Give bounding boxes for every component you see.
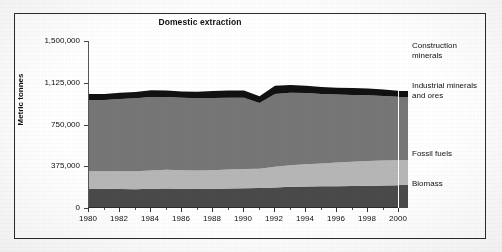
x-tick-mark-major (336, 208, 337, 212)
legend-swatch (399, 185, 408, 208)
x-tick-mark-minor (352, 208, 353, 210)
x-tick-label: 1998 (352, 214, 382, 223)
x-tick-label: 1984 (135, 214, 165, 223)
legend-label: Construction minerals (412, 41, 486, 60)
x-tick-mark-minor (383, 208, 384, 210)
y-tick-label: 750,000 (16, 120, 80, 129)
y-tick-label: 1,125,000 (16, 78, 80, 87)
x-tick-label: 1986 (166, 214, 196, 223)
legend-label: Industrial minerals and ores (412, 81, 486, 100)
x-tick-mark-minor (259, 208, 260, 210)
x-tick-mark-major (88, 208, 89, 212)
x-tick-mark-minor (197, 208, 198, 210)
x-tick-mark-major (243, 208, 244, 212)
x-tick-label: 1994 (290, 214, 320, 223)
legend-swatch (399, 160, 408, 185)
x-tick-mark-major (119, 208, 120, 212)
x-tick-mark-minor (104, 208, 105, 210)
y-tick-label: 1,500,000 (16, 36, 80, 45)
x-tick-mark-major (150, 208, 151, 212)
stacked-area-series (89, 41, 398, 208)
chart-screenshot: Domestic extraction Metric tonnes 0375,0… (0, 0, 502, 252)
chart-legend: Construction mineralsIndustrial minerals… (399, 41, 487, 208)
x-tick-label: 1992 (259, 214, 289, 223)
x-tick-label: 1982 (104, 214, 134, 223)
x-tick-mark-minor (321, 208, 322, 210)
x-tick-mark-minor (166, 208, 167, 210)
x-tick-mark-minor (290, 208, 291, 210)
y-tick-label: 0 (16, 203, 80, 212)
x-tick-label: 1988 (197, 214, 227, 223)
x-tick-mark-minor (228, 208, 229, 210)
legend-swatch (399, 97, 408, 160)
legend-label: Fossil fuels (412, 149, 486, 159)
y-tick-label: 375,000 (16, 161, 80, 170)
x-tick-label: 1996 (321, 214, 351, 223)
x-tick-mark-major (398, 208, 399, 212)
x-tick-label: 2000 (383, 214, 413, 223)
area-band (89, 93, 398, 171)
x-tick-mark-major (181, 208, 182, 212)
legend-label: Biomass (412, 179, 486, 189)
x-tick-mark-major (274, 208, 275, 212)
x-tick-mark-major (367, 208, 368, 212)
x-tick-label: 1980 (73, 214, 103, 223)
x-tick-mark-minor (135, 208, 136, 210)
x-tick-mark-major (212, 208, 213, 212)
plot-area (88, 41, 398, 208)
x-tick-label: 1990 (228, 214, 258, 223)
x-tick-mark-major (305, 208, 306, 212)
chart-title: Domestic extraction (0, 17, 400, 27)
y-axis-label: Metric tonnes (16, 56, 25, 144)
